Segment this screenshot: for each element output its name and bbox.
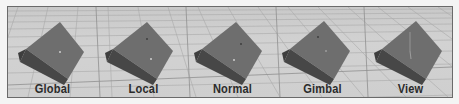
view-label: View xyxy=(370,82,452,96)
view-normal: Normal xyxy=(188,7,277,97)
orientation-modes-panel: Global Local Normal Gim xyxy=(7,6,453,98)
view-view: View xyxy=(366,7,453,97)
view-local: Local xyxy=(99,7,188,97)
view-gimbal: Gimbal xyxy=(278,7,367,97)
view-label: Gimbal xyxy=(282,82,364,96)
view-label: Normal xyxy=(192,82,274,96)
view-label: Global xyxy=(12,82,94,96)
view-label: Local xyxy=(103,82,185,96)
view-global: Global xyxy=(8,7,97,97)
